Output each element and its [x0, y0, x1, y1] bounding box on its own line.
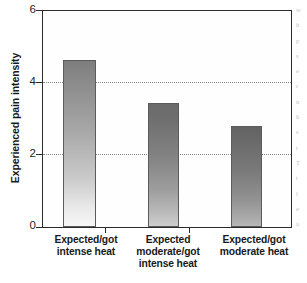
y-tick-label-0: 0	[14, 220, 36, 232]
edge-text-line: a	[296, 216, 307, 231]
edge-text-line: s	[296, 48, 307, 63]
x-axis-label-3-line-1: Expected/got	[205, 234, 303, 246]
edge-text-line: t	[296, 170, 307, 185]
x-axis-label-2-line-3: intense heat	[124, 258, 212, 270]
x-axis-label-2: Expected moderate/got intense heat	[124, 234, 212, 269]
edge-text-line: l	[296, 186, 307, 201]
x-tick-mark-1	[105, 228, 106, 233]
edge-text-line: p	[296, 33, 307, 48]
x-tick-mark-2	[189, 228, 190, 233]
y-tick-label-6: 6	[14, 4, 36, 16]
edge-text-line: e	[296, 201, 307, 216]
x-axis-label-1-line-1: Expected/got	[35, 234, 137, 246]
x-axis-label-2-line-2: moderate/got	[124, 246, 212, 258]
edge-text-line: r	[296, 78, 307, 93]
edge-text-line: n	[296, 94, 307, 109]
x-axis-label-3-line-2: moderate heat	[205, 246, 303, 258]
edge-text-line: e	[296, 63, 307, 78]
adjacent-column-cutoff-text: w h p s e r n h s t T t l e a	[296, 2, 307, 281]
bar-chart-figure: Experienced pain intensity 6 4 2 0 Expec…	[0, 0, 307, 283]
bar-expected-got-intense-heat	[63, 60, 96, 227]
edge-text-line: h	[296, 109, 307, 124]
x-axis-label-1: Expected/got intense heat	[35, 234, 137, 258]
edge-text-line: T	[296, 155, 307, 170]
bar-gradient-fill	[64, 61, 95, 226]
edge-text-line: t	[296, 140, 307, 155]
y-tick-label-2: 2	[14, 148, 36, 160]
y-tick-label-4: 4	[14, 76, 36, 88]
bar-gradient-fill	[149, 104, 178, 226]
edge-text-line: h	[296, 17, 307, 32]
edge-text-line: w	[296, 2, 307, 17]
x-axis-label-2-line-1: Expected	[124, 234, 212, 246]
x-axis-label-1-line-2: intense heat	[35, 246, 137, 258]
edge-text-line: s	[296, 124, 307, 139]
bar-expected-got-moderate-heat	[231, 126, 262, 227]
y-axis-title: Experienced pain intensity	[9, 23, 21, 213]
x-axis-label-3: Expected/got moderate heat	[205, 234, 303, 258]
bar-gradient-fill	[232, 127, 261, 226]
bar-expected-moderate-got-intense-heat	[148, 103, 179, 227]
